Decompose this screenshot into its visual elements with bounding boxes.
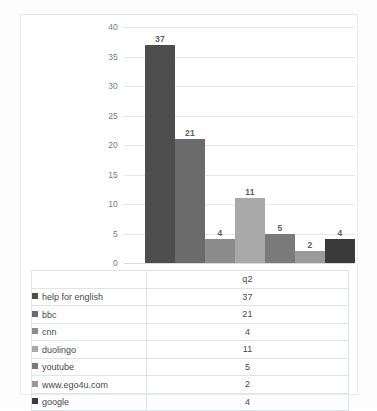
legend-color-swatch-icon [32,293,38,299]
table-row[interactable]: duolingo11 [32,341,349,359]
legend-color-swatch-icon [32,363,38,369]
legend-label: cnn [42,327,57,337]
table-value-cell: 4 [147,393,349,411]
table-value-cell: 21 [147,306,349,324]
bar-slot[interactable]: 37 [145,27,175,263]
bar-value-label: 37 [145,34,175,44]
bar-value-label: 21 [175,128,205,138]
y-axis-tick-label: 15 [108,170,118,180]
data-table: q2help for english37bbc21cnn4duolingo11y… [31,270,349,411]
table-value-cell: 5 [147,358,349,376]
y-axis-tick-label: 35 [108,52,118,62]
y-axis-tick-label: 10 [108,199,118,209]
legend-color-swatch-icon [32,398,38,404]
bar-slot[interactable]: 11 [235,27,265,263]
table-value-cell: 37 [147,288,349,306]
legend-label: duolingo [42,345,76,355]
bar-www-ego4u-com[interactable] [295,251,325,263]
table-row[interactable]: youtube5 [32,358,349,376]
legend-key-cell[interactable]: help for english [32,288,147,306]
legend-color-swatch-icon [32,346,38,352]
gridline-0: 0 [124,263,355,264]
bar-series: 3721411524 [145,27,355,263]
table-header-key-cell [32,271,147,289]
bar-value-label: 4 [205,228,235,238]
chart-frame: 0510152025303540 3721411524 q2help for e… [20,14,358,395]
y-axis-tick-label: 40 [108,22,118,32]
legend-label: help for english [42,292,103,302]
legend-key-cell[interactable]: google [32,393,147,411]
table-row[interactable]: google4 [32,393,349,411]
bar-cnn[interactable] [205,239,235,263]
legend-color-swatch-icon [32,381,38,387]
bar-slot[interactable]: 4 [325,27,355,263]
bar-bbc[interactable] [175,139,205,263]
bar-value-label: 2 [295,240,325,250]
y-axis-tick-label: 30 [108,81,118,91]
legend-key-cell[interactable]: duolingo [32,341,147,359]
y-axis-tick-label: 0 [113,258,118,268]
table-header-row: q2 [32,271,349,289]
legend-key-cell[interactable]: youtube [32,358,147,376]
bar-value-label: 5 [265,223,295,233]
legend-color-swatch-icon [32,328,38,334]
bar-help-for-english[interactable] [145,45,175,263]
y-axis-tick-label: 20 [108,140,118,150]
bar-google[interactable] [325,239,355,263]
legend-label: bbc [42,310,57,320]
table-row[interactable]: help for english37 [32,288,349,306]
plot-area: 0510152025303540 3721411524 [124,27,355,263]
legend-key-cell[interactable]: www.ego4u.com [32,376,147,394]
y-axis-tick-label: 5 [113,229,118,239]
legend-color-swatch-icon [32,311,38,317]
legend-label: youtube [42,362,74,372]
table-value-cell: 2 [147,376,349,394]
table-header-value-cell: q2 [147,271,349,289]
data-table-body: q2help for english37bbc21cnn4duolingo11y… [32,271,349,411]
table-row[interactable]: www.ego4u.com2 [32,376,349,394]
bar-duolingo[interactable] [235,198,265,263]
bar-slot[interactable]: 4 [205,27,235,263]
bar-youtube[interactable] [265,234,295,264]
table-row[interactable]: bbc21 [32,306,349,324]
bar-value-label: 11 [235,187,265,197]
y-axis-tick-label: 25 [108,111,118,121]
legend-label: google [42,397,69,407]
bar-value-label: 4 [325,228,355,238]
legend-label: www.ego4u.com [42,380,108,390]
table-value-cell: 11 [147,341,349,359]
table-row[interactable]: cnn4 [32,323,349,341]
bar-slot[interactable]: 21 [175,27,205,263]
bar-slot[interactable]: 5 [265,27,295,263]
table-value-cell: 4 [147,323,349,341]
bar-slot[interactable]: 2 [295,27,325,263]
legend-key-cell[interactable]: bbc [32,306,147,324]
legend-key-cell[interactable]: cnn [32,323,147,341]
